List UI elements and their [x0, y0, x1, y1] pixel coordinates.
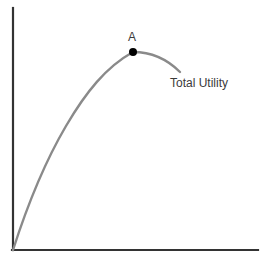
total-utility-figure: A Total Utility — [0, 0, 264, 265]
axes-group — [12, 8, 258, 250]
point-a-label: A — [128, 31, 136, 43]
total-utility-curve-group — [13, 52, 180, 250]
point-a-marker — [129, 48, 137, 56]
total-utility-curve-label: Total Utility — [170, 77, 228, 89]
total-utility-curve — [13, 52, 180, 250]
point-a-marker-group — [129, 48, 137, 56]
